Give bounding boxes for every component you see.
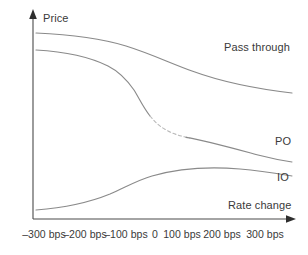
x-axis-title: Rate change [228,199,291,211]
x-tick-label: –200 bps [63,228,107,240]
series-label-po: PO [275,135,291,147]
chart-figure: Price Rate change Pass through PO IO –30… [0,0,308,255]
x-tick-label: 0 [152,228,158,240]
series-label-io: IO [277,171,289,183]
x-tick-label: –300 bps [22,228,66,240]
x-tick-label: 300 bps [246,228,284,240]
x-axis-arrowhead-icon [286,215,296,223]
series-curve-po-upper [36,50,150,116]
y-axis-arrowhead-icon [29,9,37,19]
x-tick-label: –100 bps [104,228,148,240]
x-tick-label: 100 bps [163,228,201,240]
chart-plot-area [0,0,308,255]
y-axis-title: Price [43,12,69,24]
x-axis-tick-labels: –300 bps–200 bps–100 bps0100 bps200 bps3… [0,228,308,242]
series-curve-po-faded-segment [150,116,190,138]
x-tick-label: 200 bps [203,228,241,240]
series-label-pass-through: Pass through [224,41,290,53]
